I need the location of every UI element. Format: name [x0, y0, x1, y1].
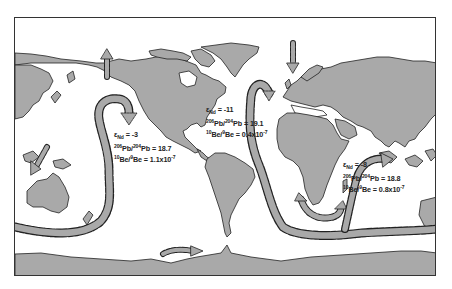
arrowhead-atlantic: [263, 91, 275, 101]
landmass-japan: [51, 91, 61, 103]
landmass-south-america: [205, 153, 255, 237]
label-indian-isotopes: εNd = -8 206Pb/204Pb = 18.8 10Be/9Be = 0…: [343, 160, 404, 194]
be-ratio-line: 10Be/9Be = 0.4x10-7: [206, 128, 267, 139]
epsilon-nd-line: εNd = -8: [343, 160, 404, 172]
pb-ratio-line: 206Pb/204Pb = 18.8: [343, 172, 404, 183]
flow-arrow-norwegian: [287, 43, 299, 73]
epsilon-nd-line: εNd = -3: [114, 130, 175, 142]
landmass-borneo: [425, 149, 436, 161]
landmass-kamchatka: [67, 71, 75, 83]
label-pacific-isotopes: εNd = -3 206Pb/204Pb = 18.7 10Be/9Be = 1…: [114, 130, 175, 164]
flow-southern-small: [163, 246, 203, 256]
landmass-antarctica: [15, 245, 436, 276]
label-atlantic-isotopes: εNd = -11 206Pb/204Pb = 19.1 10Be/9Be = …: [206, 105, 267, 139]
landmass-east-asia: [15, 65, 53, 119]
arrowhead-pacific: [121, 113, 137, 125]
pb-ratio-line: 206Pb/204Pb = 19.1: [206, 117, 267, 128]
landmass-new-guinea: [405, 155, 423, 167]
pb-ratio-line: 206Pb/204Pb = 18.7: [114, 142, 175, 153]
map-canvas: [15, 18, 436, 276]
be-ratio-line: 10Be/9Be = 0.8x10-7: [343, 183, 404, 194]
landmass-new-guinea-left: [53, 159, 71, 169]
landmass-australia: [27, 173, 69, 213]
world-map: εNd = -3 206Pb/204Pb = 18.7 10Be/9Be = 1…: [14, 17, 436, 276]
be-ratio-line: 10Be/9Be = 1.1x10-7: [114, 153, 175, 164]
epsilon-nd-line: εNd = -11: [206, 105, 267, 117]
landmass-australia-east: [419, 197, 436, 227]
